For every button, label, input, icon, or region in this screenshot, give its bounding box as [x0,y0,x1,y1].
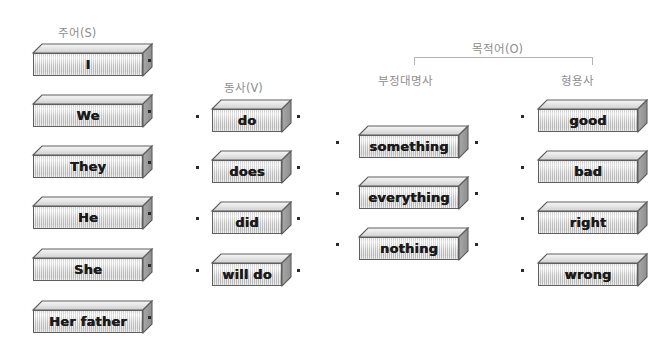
word-block-label: I [85,57,90,72]
word-block[interactable]: will do [212,254,291,286]
block-front-face: We [33,104,143,127]
connector-dot[interactable] [196,166,199,169]
block-front-face: bad [538,160,638,183]
connector-dot[interactable] [148,110,151,113]
word-block-label: will do [222,267,272,282]
block-top-face [538,254,647,263]
word-block-label: He [78,210,98,225]
connector-dot[interactable] [196,217,199,220]
word-block-label: everything [368,190,449,205]
word-block[interactable]: He [33,197,152,229]
word-block[interactable]: I [33,44,152,76]
connector-dot[interactable] [148,161,151,164]
block-top-face [33,197,152,206]
block-front-face: nothing [359,237,459,260]
word-block[interactable]: We [33,95,152,127]
connector-dot[interactable] [336,141,339,144]
word-block-label: does [229,164,265,179]
connector-dot[interactable] [148,264,151,267]
connector-dot[interactable] [475,243,478,246]
word-block[interactable]: right [538,202,647,234]
word-block[interactable]: She [33,249,152,281]
block-top-face [212,202,291,211]
block-front-face: good [538,109,638,132]
connector-dot[interactable] [336,192,339,195]
word-block-label: bad [574,164,602,179]
block-top-face [212,100,291,109]
column-header-adjective: 형용사 [561,72,594,88]
connector-dot[interactable] [196,269,199,272]
word-block[interactable]: something [359,126,468,158]
connector-dot[interactable] [521,166,524,169]
word-block-label: good [569,113,606,128]
block-front-face: something [359,135,459,158]
block-front-face: did [212,211,282,234]
word-block-label: did [235,215,259,230]
block-top-face [212,151,291,160]
column-header-indefinite-pronoun: 부정대명사 [378,72,433,88]
word-block[interactable]: did [212,202,291,234]
block-front-face: do [212,109,282,132]
word-block-label: something [369,139,448,154]
block-top-face [33,44,152,53]
connector-dot[interactable] [521,115,524,118]
connector-dot[interactable] [475,141,478,144]
column-header-verb: 동사(V) [224,79,263,95]
block-front-face: wrong [538,263,638,286]
column-header-subject: 주어(S) [58,24,96,40]
block-front-face: They [33,155,143,178]
block-top-face [212,254,291,263]
word-block[interactable]: nothing [359,228,468,260]
word-block-label: They [70,159,106,174]
block-top-face [33,249,152,258]
block-front-face: everything [359,186,459,209]
connector-dot[interactable] [148,59,151,62]
block-top-face [33,95,152,104]
connector-dot[interactable] [297,217,300,220]
connector-dot[interactable] [148,212,151,215]
word-block[interactable]: good [538,100,647,132]
word-block[interactable]: They [33,146,152,178]
object-group-bracket [414,57,593,65]
word-block-label: wrong [565,267,612,282]
block-top-face [359,228,468,237]
block-front-face: She [33,258,143,281]
connector-dot[interactable] [297,115,300,118]
block-top-face [538,151,647,160]
connector-dot[interactable] [196,115,199,118]
connector-dot[interactable] [297,269,300,272]
word-block[interactable]: does [212,151,291,183]
word-block-label: do [238,113,257,128]
word-block-label: We [76,108,99,123]
connector-dot[interactable] [521,269,524,272]
word-block[interactable]: bad [538,151,647,183]
column-header-object: 목적어(O) [472,40,523,56]
block-front-face: right [538,211,638,234]
word-block[interactable]: everything [359,177,468,209]
worksheet-canvas: 주어(S)동사(V)목적어(O)부정대명사형용사IWeTheyHeSheHer … [0,0,672,349]
block-front-face: will do [212,263,282,286]
block-top-face [359,177,468,186]
connector-dot[interactable] [336,243,339,246]
block-front-face: does [212,160,282,183]
connector-dot[interactable] [297,166,300,169]
word-block-label: right [570,215,607,230]
block-top-face [538,100,647,109]
connector-dot[interactable] [148,316,151,319]
connector-dot[interactable] [475,192,478,195]
block-front-face: I [33,53,143,76]
block-front-face: He [33,206,143,229]
block-top-face [359,126,468,135]
word-block-label: Her father [49,314,127,329]
block-top-face [33,301,152,310]
word-block[interactable]: do [212,100,291,132]
word-block-label: She [74,262,102,277]
word-block-label: nothing [380,241,438,256]
connector-dot[interactable] [521,217,524,220]
word-block[interactable]: wrong [538,254,647,286]
block-top-face [538,202,647,211]
block-top-face [33,146,152,155]
block-front-face: Her father [33,310,143,333]
word-block[interactable]: Her father [33,301,152,333]
